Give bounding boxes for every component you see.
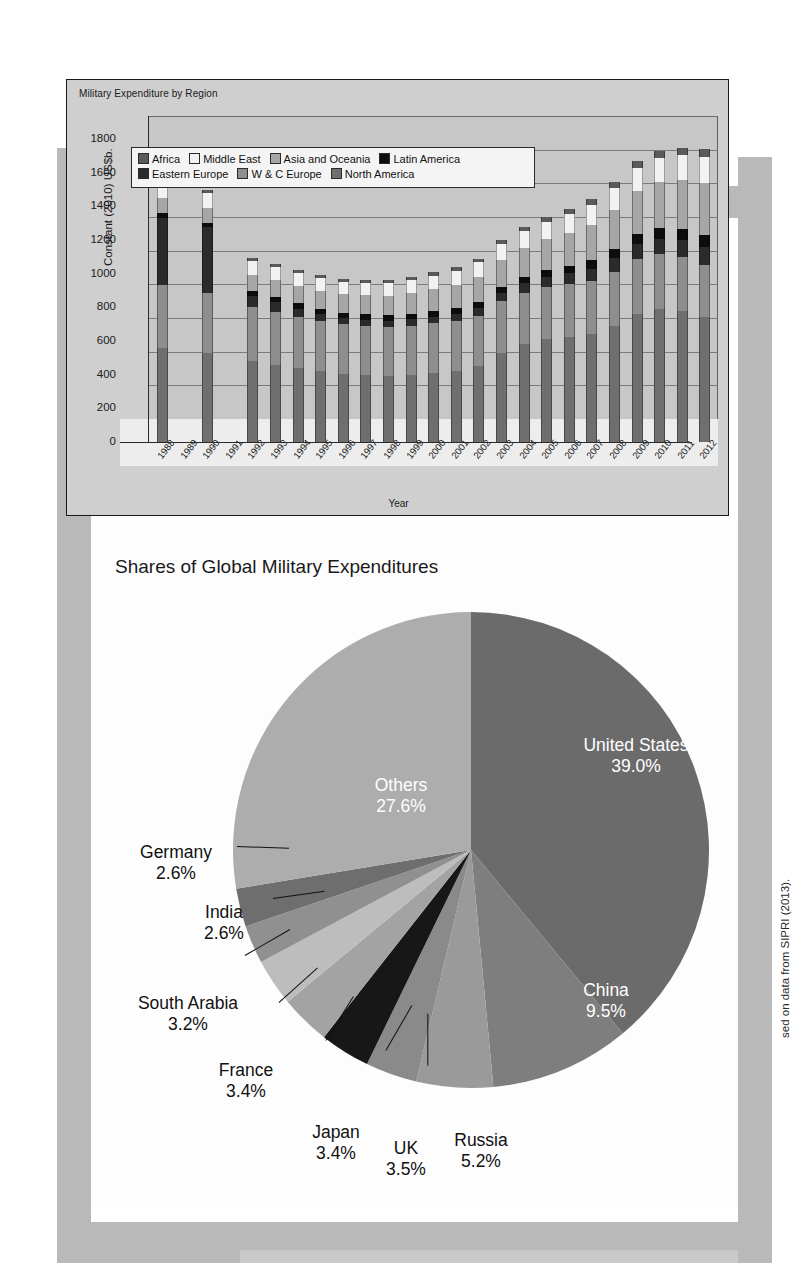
bar-segment [677,180,688,229]
bar-stack [586,199,597,442]
bar-segment [541,287,552,339]
bar-segment [451,271,462,285]
legend-swatch [138,153,149,164]
pie-label-value: 39.0% [561,756,711,777]
bar-segment [654,151,665,158]
bar-segment [609,326,620,442]
bar-segment [564,214,575,233]
bar-segment [677,155,688,180]
margin-band-bottom-inner [240,1250,738,1263]
bar-segment [338,294,349,313]
bar-segment [564,337,575,442]
bar-segment [338,282,349,294]
pie-chart-panel: Shares of Global Military Expenditures U… [91,520,738,1208]
y-axis-tick-label: 400 [76,368,116,380]
y-axis-tick-label: 1800 [76,132,116,144]
pie-leader-line [427,1014,428,1066]
bar-segment [699,235,710,246]
bar-segment [157,218,168,284]
pie-label-south-arabia: South Arabia3.2% [113,993,263,1034]
bar-stack [383,280,394,442]
bar-segment [157,348,168,442]
bar-segment [428,323,439,373]
pie-label-others: Others27.6% [326,775,476,816]
y-axis-tick-label: 800 [76,300,116,312]
pie-label-name: South Arabia [113,993,263,1014]
legend-swatch [331,168,342,179]
y-axis-tick-label: 200 [76,401,116,413]
bar-segment [406,280,417,293]
pie-label-japan: Japan3.4% [261,1122,411,1163]
bar-segment [632,314,643,442]
bar-segment [564,284,575,337]
bar-stack [609,182,620,442]
bar-segment [247,296,258,307]
bar-segment [202,293,213,353]
bar-stack [473,259,484,442]
bar-chart-legend: AfricaMiddle EastAsia and OceaniaLatin A… [131,147,535,188]
bar-segment [473,316,484,367]
x-axis-label: Year [67,498,730,509]
bar-segment [632,191,643,234]
bar-segment [202,193,213,208]
bar-segment [293,273,304,286]
bar-segment [519,283,530,292]
bar-segment [586,334,597,442]
bar-segment [677,311,688,442]
pie-label-china: China9.5% [531,980,681,1021]
bar-segment [609,249,620,258]
bar-segment [293,368,304,442]
bar-segment [654,309,665,442]
bar-segment [383,296,394,316]
bar-stack [157,185,168,443]
bar-segment [496,293,507,302]
bar-stack [338,279,349,442]
bar-segment [496,301,507,352]
bar-segment [541,239,552,270]
pie-label-name: China [531,980,681,1001]
gridline [149,116,718,117]
legend-label: North America [345,168,415,180]
pie-label-india: India2.6% [149,902,299,943]
bar-segment [473,277,484,302]
bar-segment [519,293,530,345]
y-axis-tick-label: 0 [76,435,116,447]
x-axis-line [120,442,692,443]
bar-segment [699,157,710,183]
bar-segment [270,312,281,365]
bar-segment [428,276,439,289]
pie-label-value: 2.6% [101,863,251,884]
legend-item-latin-america: Latin America [379,152,460,167]
bar-segment [496,260,507,287]
legend-swatch [189,153,200,164]
bar-stack [541,217,552,442]
bar-segment [293,309,304,317]
bar-segment [202,208,213,223]
pie-label-value: 2.6% [149,923,299,944]
bar-segment [360,283,371,295]
bar-segment [451,314,462,321]
legend-label: Eastern Europe [152,168,228,180]
legend-item-asia-and-oceania: Asia and Oceania [270,152,371,167]
bar-stack [202,190,213,442]
legend-item-africa: Africa [138,152,180,167]
bar-segment [315,314,326,321]
legend-item-w-c-europe: W & C Europe [237,167,321,182]
bar-segment [202,353,213,442]
bar-segment [699,247,710,265]
bar-segment [586,260,597,268]
legend-item-middle-east: Middle East [189,152,260,167]
bar-segment [451,285,462,308]
bar-segment [270,302,281,312]
bar-segment [315,278,326,290]
bar-segment [293,317,304,368]
legend-item-eastern-europe: Eastern Europe [138,167,228,182]
bar-stack [564,209,575,442]
bar-segment [677,148,688,155]
legend-label: W & C Europe [251,168,321,180]
bar-segment [699,265,710,318]
pie-label-name: France [171,1060,321,1081]
bar-segment [519,344,530,442]
bar-segment [360,326,371,375]
bar-segment [632,259,643,314]
